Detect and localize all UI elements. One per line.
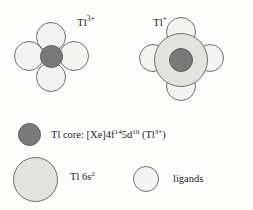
label-tl3plus-charge: 3+ <box>87 14 95 23</box>
legend-label-tl-core: Tl core: [Xe]4f145d10 (Tl3+) <box>51 130 166 141</box>
label-tl1plus: Tl+ <box>153 17 167 28</box>
legend-tl-6s2-prefix: Tl 6s <box>70 171 91 182</box>
legend-tl-core-suffix-close: ) <box>162 129 166 140</box>
label-tl3plus-element: Tl <box>77 16 87 28</box>
legend-tl-core-suffix-open: (Tl <box>139 129 154 140</box>
legend-tl-core-mid: 5d <box>122 129 133 140</box>
legend-label-ligands: ligands <box>173 174 203 185</box>
legend-tl-core-prefix: Tl core: [Xe]4f <box>51 129 115 140</box>
label-tl1plus-element: Tl <box>153 16 163 28</box>
label-tl3plus: Tl3+ <box>77 17 95 28</box>
legend-swatch-ligands <box>133 166 159 192</box>
ligand-circle-right <box>59 41 89 71</box>
legend-tl-core-sup-4f: 14 <box>115 128 122 136</box>
legend-tl-6s2-sup: 2 <box>91 170 95 178</box>
legend-ligands-text: ligands <box>173 173 203 184</box>
tl-core-circle <box>169 48 193 72</box>
tl-core-circle <box>40 45 63 68</box>
legend-label-tl-6s2: Tl 6s2 <box>70 172 95 183</box>
label-tl1plus-charge: + <box>163 14 167 23</box>
figure-canvas: Tl3+ Tl+ Tl core: [Xe]4f145d10 (Tl3+) Tl… <box>0 0 253 210</box>
legend-swatch-tl-core <box>18 123 41 146</box>
legend-swatch-tl-6s2 <box>13 157 58 202</box>
